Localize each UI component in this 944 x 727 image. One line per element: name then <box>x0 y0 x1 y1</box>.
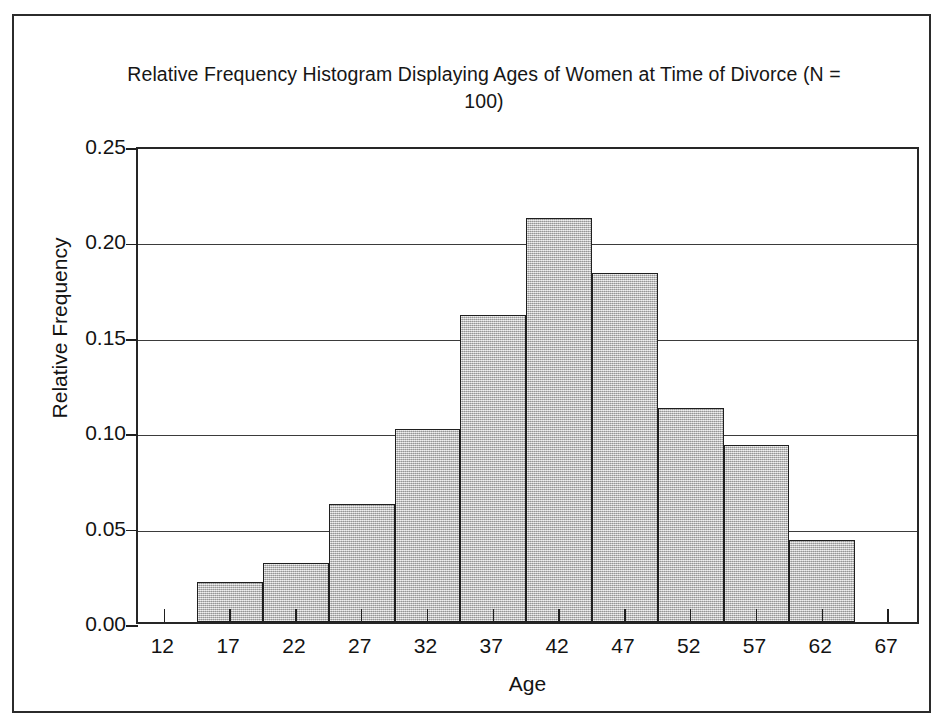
x-axis-tick <box>887 609 889 622</box>
x-axis-tick <box>295 609 297 622</box>
x-axis-title: Age <box>136 672 919 696</box>
x-axis-tick-label: 12 <box>132 634 192 658</box>
histogram-bar <box>329 504 395 622</box>
x-axis-tick <box>229 609 231 622</box>
y-axis-tick-label: 0.00 <box>54 612 126 636</box>
histogram-bars <box>138 149 917 622</box>
x-axis-tick-label: 57 <box>725 634 785 658</box>
histogram-bar <box>592 273 658 622</box>
histogram-bar <box>724 445 790 622</box>
x-axis-tick <box>361 609 363 622</box>
x-axis-tick-label: 32 <box>396 634 456 658</box>
x-axis-tick-label: 22 <box>264 634 324 658</box>
x-axis-tick <box>558 609 560 622</box>
figure-border: Relative Frequency Histogram Displaying … <box>12 14 931 713</box>
x-axis-tick-label: 37 <box>461 634 521 658</box>
x-axis-tick <box>822 609 824 622</box>
x-axis-tick-label: 27 <box>330 634 390 658</box>
y-axis-tick <box>126 148 138 150</box>
y-axis-tick <box>126 530 138 532</box>
x-axis-tick-label: 67 <box>856 634 916 658</box>
x-axis-tick-label: 62 <box>790 634 850 658</box>
x-axis-tick <box>493 609 495 622</box>
histogram-bar <box>395 429 461 622</box>
y-axis-tick-label: 0.05 <box>54 517 126 541</box>
x-axis-tick-label: 47 <box>593 634 653 658</box>
plot-area <box>136 147 919 624</box>
y-axis-tick-label: 0.25 <box>54 135 126 159</box>
histogram-bar <box>658 408 724 622</box>
histogram-bar <box>526 218 592 622</box>
x-axis-tick <box>427 609 429 622</box>
x-axis-tick <box>756 609 758 622</box>
x-axis-tick-label: 52 <box>659 634 719 658</box>
x-axis-tick-label: 42 <box>527 634 587 658</box>
x-axis-tick <box>624 609 626 622</box>
x-axis-tick <box>690 609 692 622</box>
x-axis-tick-label: 17 <box>198 634 258 658</box>
histogram-bar <box>460 315 526 622</box>
y-axis-tick <box>126 625 138 627</box>
x-axis-tick-labels: 121722273237424752576267 <box>136 634 919 664</box>
chart-title: Relative Frequency Histogram Displaying … <box>124 61 844 115</box>
y-axis-tick <box>126 244 138 246</box>
x-axis-tick <box>164 609 166 622</box>
y-axis-title: Relative Frequency <box>48 178 72 478</box>
y-axis-tick <box>126 339 138 341</box>
y-axis-tick <box>126 434 138 436</box>
